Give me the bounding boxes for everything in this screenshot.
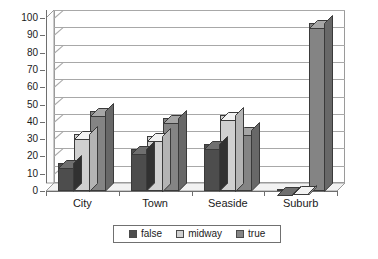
y-axis-tick-label: 20 [4, 151, 38, 161]
legend-swatch-icon [129, 230, 137, 238]
y-axis-tick-label: 100 [4, 13, 38, 23]
y-axis-tick-mark [40, 105, 45, 106]
y-axis-tick-label: 40 [4, 117, 38, 127]
bar-side-face [146, 141, 155, 196]
bar [204, 144, 220, 191]
gridline [54, 79, 345, 80]
y-axis-line [46, 10, 47, 183]
bar [309, 23, 325, 191]
gridline-connector [54, 45, 64, 54]
gridline-connector [54, 114, 64, 123]
y-axis-tick-label: 60 [4, 82, 38, 92]
y-axis-tick-label: 50 [4, 100, 38, 110]
y-axis-tick-mark [40, 174, 45, 175]
bar-side-face [89, 126, 98, 196]
bar-side-face [178, 110, 187, 196]
gridline [54, 62, 345, 63]
y-axis-tick-label: 80 [4, 48, 38, 58]
y-axis-tick-label: 90 [4, 30, 38, 40]
gridline-connector [54, 97, 64, 106]
bar-side-face [219, 136, 228, 196]
y-axis-tick-mark [40, 191, 45, 192]
gridline-connector [54, 28, 64, 37]
bar [58, 163, 74, 191]
legend-label: true [248, 229, 265, 239]
legend-label: midway [188, 229, 222, 239]
y-axis-tick-mark [40, 122, 45, 123]
y-axis-tick-mark [40, 35, 45, 36]
bar-front-face [309, 23, 325, 191]
x-axis-tick-mark [337, 191, 338, 196]
legend-item[interactable]: true [236, 229, 265, 239]
bar [277, 190, 293, 191]
plot-area [46, 18, 337, 191]
x-axis-tick-mark [46, 191, 47, 196]
x-axis-tick-mark [192, 191, 193, 196]
gridline [54, 10, 345, 11]
legend-label: false [141, 229, 162, 239]
y-axis-tick-label: 30 [4, 134, 38, 144]
x-axis-tick-mark [119, 191, 120, 196]
y-axis-tick-mark [40, 139, 45, 140]
gridline [54, 27, 345, 28]
bar-side-face [292, 182, 301, 200]
bar-side-face [324, 15, 333, 196]
x-axis-category-label: Seaside [192, 197, 265, 209]
gridline [54, 97, 345, 98]
legend-item[interactable]: midway [176, 229, 222, 239]
x-axis-tick-mark [264, 191, 265, 196]
gridline-connector [54, 10, 64, 19]
bar-side-face [235, 107, 244, 196]
bar-side-face [73, 155, 82, 196]
bar-side-face [308, 181, 317, 199]
legend-swatch-icon [176, 230, 184, 238]
gridline-connector [54, 62, 64, 71]
gridline-connector [54, 131, 64, 140]
y-axis-tick-mark [40, 156, 45, 157]
x-axis-category-label: City [46, 197, 119, 209]
bar [131, 149, 147, 191]
bar-side-face [105, 103, 114, 196]
gridline-connector [54, 79, 64, 88]
x-axis-category-label: Town [119, 197, 192, 209]
y-axis-tick-mark [40, 18, 45, 19]
y-axis-tick-mark [40, 87, 45, 88]
plot-side-wall [46, 10, 54, 183]
bar-chart: 0102030405060708090100 CityTownSeasideSu… [0, 0, 378, 259]
y-axis-tick-label: 0 [4, 186, 38, 196]
gridline [54, 45, 345, 46]
bar-side-face [251, 122, 260, 196]
chart-legend: falsemidwaytrue [113, 225, 281, 243]
y-axis-tick-label: 70 [4, 65, 38, 75]
y-axis-tick-mark [40, 53, 45, 54]
y-axis-tick-mark [40, 70, 45, 71]
bar-side-face [162, 128, 171, 196]
y-axis-tick-label: 10 [4, 169, 38, 179]
legend-item[interactable]: false [129, 229, 162, 239]
legend-swatch-icon [236, 230, 244, 238]
